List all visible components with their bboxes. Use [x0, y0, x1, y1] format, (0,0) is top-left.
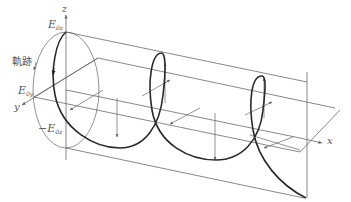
y-axis-label: y — [14, 101, 20, 112]
e0z-top-subscript: 0z — [56, 24, 63, 31]
x-axis — [300, 138, 322, 143]
e0z-top-symbol: E — [48, 18, 56, 31]
e0y-label: E0y — [18, 84, 33, 97]
z-axis-label: z — [62, 4, 67, 14]
e0z-bottom-subscript: 0z — [55, 128, 62, 135]
minus-sign: − — [38, 122, 47, 135]
helix-trajectory — [53, 32, 306, 198]
e0y-subscript: 0y — [26, 90, 33, 97]
trajectory-label: 軌跡 — [12, 53, 32, 68]
e0y-symbol: E — [18, 84, 26, 97]
e0z-bottom-label: −E0z — [38, 122, 62, 135]
e0z-top-label: E0z — [48, 18, 63, 31]
x-axis-label: x — [327, 135, 333, 146]
